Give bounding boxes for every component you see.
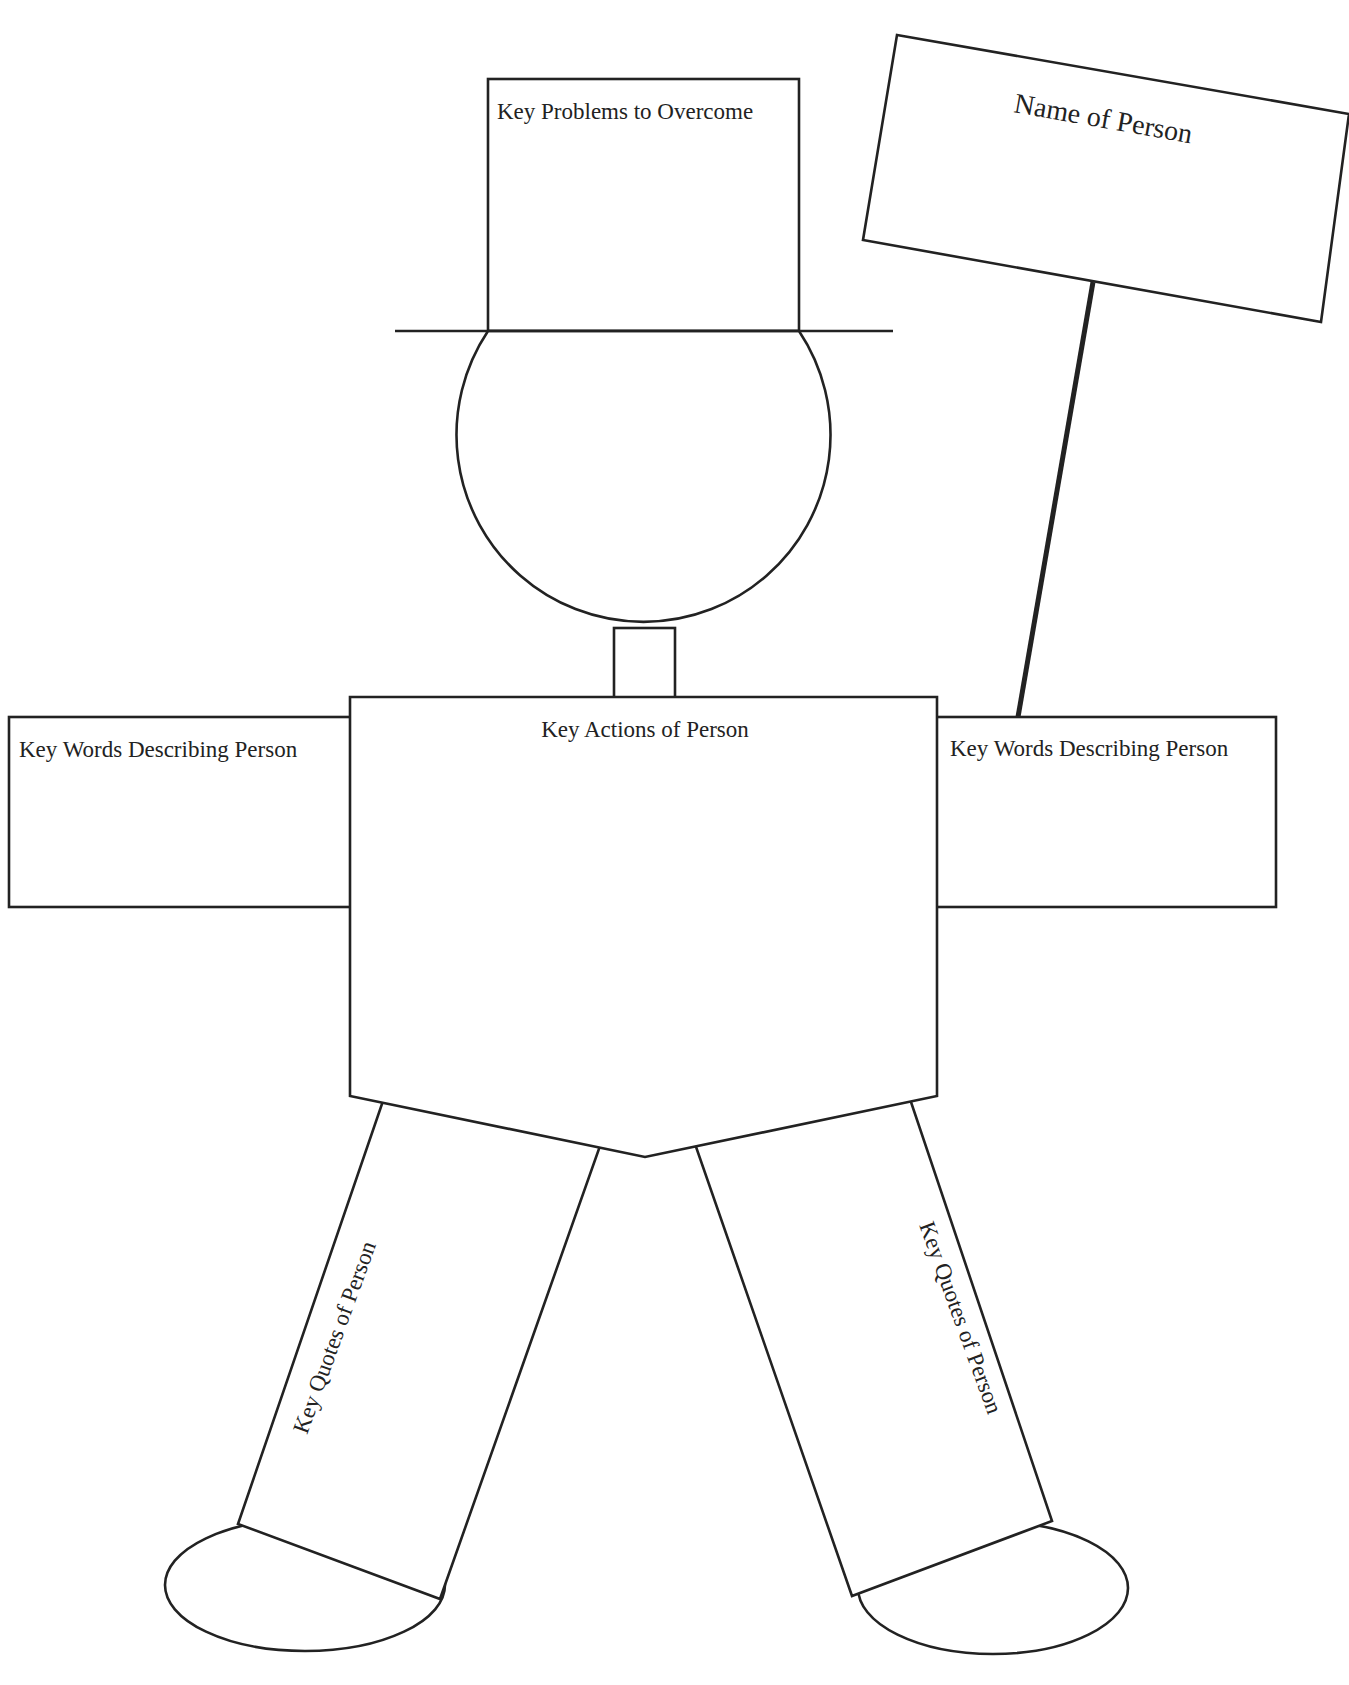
right-arm-label: Key Words Describing Person: [950, 736, 1229, 761]
head-circle[interactable]: [457, 331, 831, 622]
neck: [614, 628, 675, 698]
left-arm[interactable]: Key Words Describing Person: [9, 717, 354, 907]
torso[interactable]: Key Actions of Person: [350, 697, 937, 1157]
hat[interactable]: Key Problems to Overcome: [488, 79, 799, 331]
sign-post: [1018, 282, 1093, 717]
person-organizer-diagram: Name of Person Key Problems to Overcome …: [0, 0, 1349, 1685]
left-leg-box[interactable]: [238, 1098, 600, 1599]
right-leg[interactable]: Key Quotes of Person: [695, 1096, 1128, 1654]
right-leg-box[interactable]: [695, 1096, 1052, 1596]
right-arm[interactable]: Key Words Describing Person: [934, 717, 1276, 907]
torso-box[interactable]: [350, 697, 937, 1157]
left-arm-label: Key Words Describing Person: [19, 737, 298, 762]
left-leg[interactable]: Key Quotes of Person: [165, 1098, 600, 1651]
hat-label: Key Problems to Overcome: [497, 99, 753, 124]
torso-label: Key Actions of Person: [541, 717, 749, 742]
name-sign[interactable]: Name of Person: [863, 35, 1349, 322]
name-sign-board[interactable]: [863, 35, 1349, 322]
